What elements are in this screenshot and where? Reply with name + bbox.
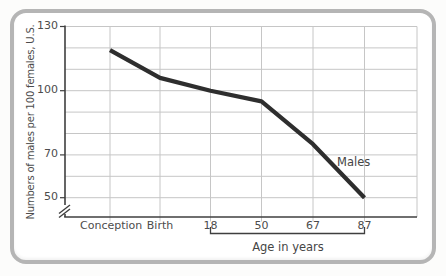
y-tick-label-130: 130 [22,20,58,32]
x-axis-title: Age in years [227,240,349,254]
y-tick-label-50: 50 [22,191,58,203]
series-label-males: Males [337,155,370,169]
figure: Numbers of males per 100 females, U.S. 1… [0,0,446,276]
y-tick-label-70: 70 [22,148,58,160]
line-chart-canvas [0,0,446,276]
y-tick-label-100: 100 [22,84,58,96]
x-tick-label-87: 87 [335,220,395,232]
males-line [110,50,365,198]
